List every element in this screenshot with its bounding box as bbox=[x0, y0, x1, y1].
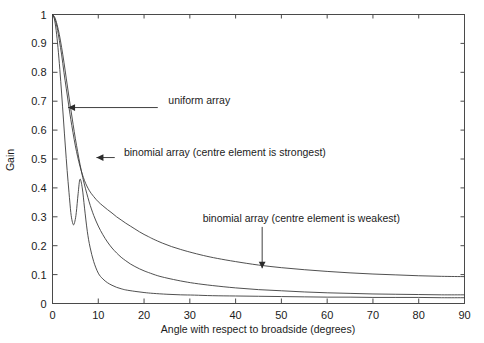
gain-vs-angle-plot: 0102030405060708090 00.10.20.30.40.50.60… bbox=[0, 0, 484, 343]
x-tick-label: 80 bbox=[413, 309, 425, 321]
y-tick-label: 0.4 bbox=[31, 182, 46, 194]
x-tick-label: 90 bbox=[458, 309, 470, 321]
y-tick-label: 1 bbox=[40, 9, 46, 21]
y-tick-label: 0.2 bbox=[31, 240, 46, 252]
y-tick-label: 0 bbox=[40, 298, 46, 310]
y-tick-label: 0.8 bbox=[31, 66, 46, 78]
x-tick-label: 0 bbox=[49, 309, 55, 321]
x-tick-label: 40 bbox=[229, 309, 241, 321]
annotation-label: binomial array (centre element is strong… bbox=[124, 146, 326, 158]
y-tick-label: 0.1 bbox=[31, 269, 46, 281]
y-tick-label: 0.9 bbox=[31, 37, 46, 49]
annotation-label: binomial array (centre element is weakes… bbox=[203, 212, 400, 224]
x-tick-label: 50 bbox=[275, 309, 287, 321]
x-tick-label: 70 bbox=[367, 309, 379, 321]
figure-background bbox=[0, 0, 484, 343]
y-axis-title: Gain bbox=[4, 149, 16, 171]
annotation-label: uniform array bbox=[168, 94, 231, 106]
y-tick-label: 0.5 bbox=[31, 153, 46, 165]
x-axis-title: Angle with respect to broadside (degrees… bbox=[161, 323, 355, 335]
x-tick-label: 20 bbox=[138, 309, 150, 321]
chart-figure: 0102030405060708090 00.10.20.30.40.50.60… bbox=[0, 0, 484, 343]
y-tick-label: 0.7 bbox=[31, 95, 46, 107]
y-tick-label: 0.6 bbox=[31, 124, 46, 136]
x-tick-label: 60 bbox=[321, 309, 333, 321]
x-tick-label: 10 bbox=[92, 309, 104, 321]
x-tick-label: 30 bbox=[184, 309, 196, 321]
y-tick-label: 0.3 bbox=[31, 211, 46, 223]
